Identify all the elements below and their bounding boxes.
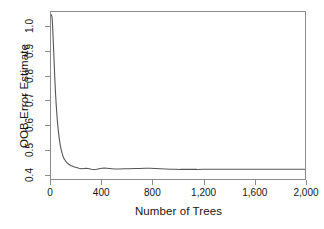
x-tick-label: 0: [30, 187, 70, 198]
y-tick-label: 1.0: [22, 11, 36, 41]
x-tick-mark: [101, 180, 102, 185]
y-tick-mark: [45, 100, 50, 101]
x-tick-label: 2,000: [286, 187, 324, 198]
x-tick-mark: [204, 180, 205, 185]
y-tick-mark: [45, 175, 50, 176]
oob-error-curve: [51, 12, 305, 179]
plot-area: [50, 11, 306, 180]
x-tick-mark: [255, 180, 256, 185]
x-tick-label: 1,600: [235, 187, 275, 198]
x-tick-mark: [306, 180, 307, 185]
x-tick-label: 1,200: [184, 187, 224, 198]
y-tick-mark: [45, 51, 50, 52]
x-tick-mark: [50, 180, 51, 185]
y-tick-mark: [45, 26, 50, 27]
x-tick-mark: [152, 180, 153, 185]
x-axis-title: Number of Trees: [50, 205, 307, 217]
y-tick-mark: [45, 76, 50, 77]
y-tick-mark: [45, 125, 50, 126]
oob-error-chart: OOB Error Estimate 0.40.50.60.70.80.91.0…: [0, 0, 324, 229]
y-tick-mark: [45, 150, 50, 151]
x-tick-label: 800: [132, 187, 172, 198]
x-tick-label: 400: [81, 187, 121, 198]
